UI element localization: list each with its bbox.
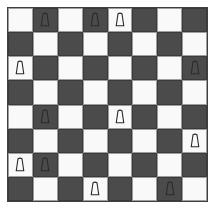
board-square-h6[interactable] — [182, 56, 207, 80]
board-square-g7[interactable] — [157, 32, 182, 56]
board-square-c3[interactable] — [58, 129, 83, 153]
board-square-d1[interactable] — [83, 177, 108, 201]
board-square-g6[interactable] — [157, 56, 182, 80]
board-square-a3[interactable] — [8, 129, 33, 153]
board-square-a6[interactable] — [8, 56, 33, 80]
board-square-e4[interactable] — [108, 105, 133, 129]
pawn-icon — [109, 9, 132, 31]
board-square-b3[interactable] — [33, 129, 58, 153]
board-square-c7[interactable] — [58, 32, 83, 56]
board-square-b6[interactable] — [33, 56, 58, 80]
board-square-e7[interactable] — [108, 32, 133, 56]
board-square-g3[interactable] — [157, 129, 182, 153]
pawn-icon — [183, 130, 206, 152]
board-square-g8[interactable] — [157, 8, 182, 32]
board-square-a5[interactable] — [8, 80, 33, 104]
board-square-a1[interactable] — [8, 177, 33, 201]
board-square-h2[interactable] — [182, 153, 207, 177]
board-square-d4[interactable] — [83, 105, 108, 129]
board-square-b7[interactable] — [33, 32, 58, 56]
board-square-e3[interactable] — [108, 129, 133, 153]
board-square-c8[interactable] — [58, 8, 83, 32]
board-square-b8[interactable] — [33, 8, 58, 32]
board-square-g4[interactable] — [157, 105, 182, 129]
board-square-h3[interactable] — [182, 129, 207, 153]
board-square-a2[interactable] — [8, 153, 33, 177]
chessboard-frame — [7, 7, 208, 202]
board-square-h4[interactable] — [182, 105, 207, 129]
chessboard-grid — [8, 8, 207, 201]
board-square-b2[interactable] — [33, 153, 58, 177]
pawn-icon — [158, 178, 181, 200]
pawn-icon — [9, 154, 32, 176]
board-square-g2[interactable] — [157, 153, 182, 177]
board-square-c4[interactable] — [58, 105, 83, 129]
board-square-e5[interactable] — [108, 80, 133, 104]
board-square-h5[interactable] — [182, 80, 207, 104]
pawn-icon — [109, 106, 132, 128]
board-square-f7[interactable] — [132, 32, 157, 56]
board-square-b1[interactable] — [33, 177, 58, 201]
pawn-icon — [84, 178, 107, 200]
board-square-c5[interactable] — [58, 80, 83, 104]
pawn-icon — [34, 154, 57, 176]
board-square-f6[interactable] — [132, 56, 157, 80]
board-square-d8[interactable] — [83, 8, 108, 32]
board-square-g1[interactable] — [157, 177, 182, 201]
board-square-c2[interactable] — [58, 153, 83, 177]
board-square-a7[interactable] — [8, 32, 33, 56]
board-square-f2[interactable] — [132, 153, 157, 177]
page-title: Chessboard diagram — [0, 21, 1, 22]
board-square-e2[interactable] — [108, 153, 133, 177]
pawn-icon — [84, 9, 107, 31]
board-square-e6[interactable] — [108, 56, 133, 80]
board-square-f5[interactable] — [132, 80, 157, 104]
board-square-f8[interactable] — [132, 8, 157, 32]
board-square-h1[interactable] — [182, 177, 207, 201]
board-square-f4[interactable] — [132, 105, 157, 129]
board-square-g5[interactable] — [157, 80, 182, 104]
chessboard-screenshot: Chessboard diagram — [0, 0, 216, 210]
board-square-b5[interactable] — [33, 80, 58, 104]
board-square-d5[interactable] — [83, 80, 108, 104]
pawn-icon — [183, 57, 206, 79]
board-square-b4[interactable] — [33, 105, 58, 129]
board-square-d3[interactable] — [83, 129, 108, 153]
board-square-e1[interactable] — [108, 177, 133, 201]
board-square-d2[interactable] — [83, 153, 108, 177]
board-square-c6[interactable] — [58, 56, 83, 80]
board-square-h8[interactable] — [182, 8, 207, 32]
board-square-f1[interactable] — [132, 177, 157, 201]
board-square-a4[interactable] — [8, 105, 33, 129]
pawn-icon — [34, 106, 57, 128]
board-square-f3[interactable] — [132, 129, 157, 153]
board-square-d7[interactable] — [83, 32, 108, 56]
board-square-c1[interactable] — [58, 177, 83, 201]
board-square-h7[interactable] — [182, 32, 207, 56]
board-square-e8[interactable] — [108, 8, 133, 32]
board-square-d6[interactable] — [83, 56, 108, 80]
board-square-a8[interactable] — [8, 8, 33, 32]
pawn-icon — [34, 9, 57, 31]
pawn-icon — [9, 57, 32, 79]
